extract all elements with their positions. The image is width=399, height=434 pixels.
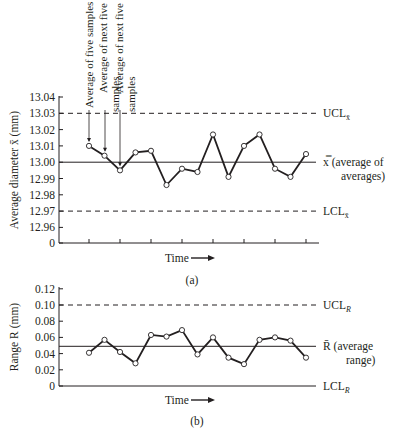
data-point (148, 148, 153, 153)
data-point (210, 335, 215, 340)
xbar-series-line (89, 134, 306, 185)
center-label-line2: averages) (341, 170, 385, 183)
data-point (303, 355, 308, 360)
y-tick-label: 12.97 (29, 205, 55, 217)
y-tick-label: 12.99 (29, 173, 55, 185)
x-axis-title: Time (165, 394, 189, 406)
data-point (86, 350, 91, 355)
data-point (210, 132, 215, 137)
lcl-label: LCLx̄ (323, 205, 349, 220)
y-tick-label: 13.02 (29, 124, 55, 136)
data-point (272, 166, 277, 171)
data-point (102, 337, 107, 342)
data-point (164, 334, 169, 339)
data-point (117, 168, 122, 173)
xbar-chart: 13.0413.0313.0213.0113.0012.9912.9812.97… (8, 2, 385, 287)
data-point (133, 361, 138, 366)
caption: (a) (186, 274, 199, 287)
ucl-label: UCLR (323, 299, 351, 314)
time-arrow-icon (208, 255, 215, 261)
caption: (b) (190, 415, 204, 428)
y-axis-title: Average diameter x̄ (mm) (8, 111, 21, 229)
data-point (241, 362, 246, 367)
ucl-label: UCLx̄ (323, 107, 350, 122)
data-point (148, 332, 153, 337)
data-point (117, 349, 122, 354)
data-point (226, 355, 231, 360)
arrowhead-icon (103, 148, 107, 152)
data-point (303, 151, 308, 156)
y-tick-label: 0.04 (35, 348, 55, 360)
data-point (226, 174, 231, 179)
control-charts: 13.0413.0313.0213.0113.0012.9912.9812.97… (0, 0, 399, 434)
data-point (86, 143, 91, 148)
y-tick-label: 13.01 (29, 140, 55, 152)
data-point (272, 335, 277, 340)
y-tick-label: 12.96 (29, 221, 55, 233)
center-label: x̿ (average of (323, 155, 384, 169)
annotation-label-line2: samples (125, 77, 137, 112)
y-tick-label: 13.03 (29, 107, 55, 119)
y-tick-label: 0.06 (35, 331, 55, 343)
y-tick-label: 0.02 (35, 364, 55, 376)
annotation-label: Average of next five (97, 3, 109, 93)
data-point (288, 174, 293, 179)
y-tick-label: 0 (49, 380, 55, 392)
data-point (179, 328, 184, 333)
annotation-label: Average of next five (113, 3, 125, 93)
data-point (179, 166, 184, 171)
data-point (288, 338, 293, 343)
data-point (241, 143, 246, 148)
center-label-line2: range) (346, 354, 376, 367)
data-point (133, 150, 138, 155)
y-tick-label: 12.98 (29, 189, 55, 201)
y-axis-title: Range R (mm) (8, 303, 21, 372)
y-tick-label: 13.00 (29, 156, 55, 168)
data-point (257, 132, 262, 137)
x-axis-title: Time (165, 252, 189, 264)
y-tick-label: 0.08 (35, 315, 55, 327)
y-tick-label: 0.10 (35, 299, 55, 311)
y-tick-label: 0 (49, 237, 55, 249)
y-tick-label: 13.04 (29, 91, 55, 103)
arrowhead-icon (118, 162, 122, 166)
arrowhead-icon (87, 138, 91, 142)
data-point (195, 169, 200, 174)
data-point (164, 182, 169, 187)
data-point (257, 337, 262, 342)
data-point (195, 352, 200, 357)
data-point (102, 153, 107, 158)
annotation-label: Average of five samples (83, 2, 95, 108)
y-tick-label: 0.12 (35, 283, 55, 295)
lcl-label: LCLR (323, 380, 350, 395)
center-label: R̄ (average (323, 340, 373, 353)
range-chart: 0.120.100.080.060.040.020UCLRR̄ (average… (8, 283, 376, 428)
time-arrow-icon (208, 397, 215, 403)
